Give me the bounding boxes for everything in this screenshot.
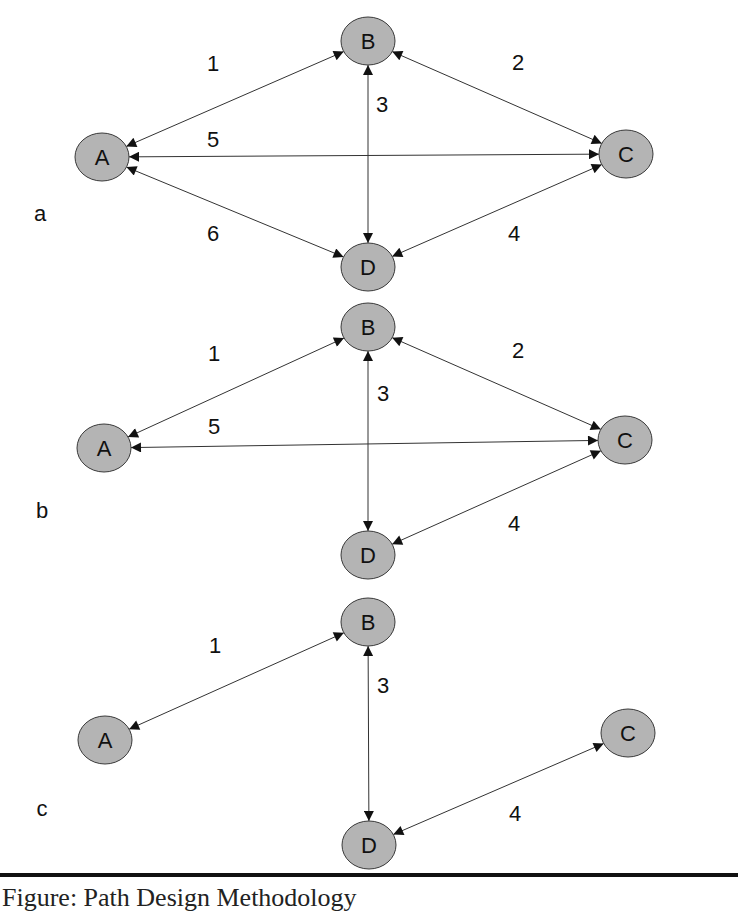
node-B: B (341, 303, 395, 351)
node-label: B (361, 29, 376, 54)
node-label: D (360, 543, 376, 568)
edge-label: 3 (376, 92, 388, 117)
panel-c: 134ABCDc (37, 598, 656, 869)
node-A: A (77, 424, 131, 472)
panel-b: 12345ABCDb (36, 303, 652, 579)
node-label: A (98, 728, 113, 753)
node-label: C (620, 721, 636, 746)
edge-label: 2 (512, 50, 524, 75)
edge-B-D (368, 646, 369, 821)
edge-label: 4 (508, 511, 520, 536)
node-A: A (75, 133, 129, 181)
edge-A-C (129, 154, 599, 157)
edge-B-C (392, 338, 601, 430)
edge-label: 4 (508, 221, 520, 246)
edge-label: 3 (377, 673, 389, 698)
panel-label: c (37, 796, 48, 821)
edge-label: 1 (209, 633, 221, 658)
node-A: A (78, 716, 132, 764)
figure-caption: Figure: Path Design Methodology (2, 885, 357, 911)
edge-C-D (392, 165, 602, 257)
edge-label: 5 (207, 127, 219, 152)
edge-B-C (392, 52, 602, 144)
edge-label: 6 (207, 221, 219, 246)
edge-label: 3 (377, 381, 389, 406)
node-B: B (341, 598, 395, 646)
edge-C-D (393, 743, 603, 834)
node-D: D (341, 243, 395, 291)
node-B: B (341, 17, 395, 65)
edge-label: 1 (207, 51, 219, 76)
node-D: D (341, 531, 395, 579)
diagram-panels: 123456ABCDa12345ABCDb134ABCDc (34, 17, 655, 869)
horizontal-rule (0, 873, 738, 877)
node-label: C (617, 428, 633, 453)
edge-label: 2 (512, 338, 524, 363)
node-C: C (598, 416, 652, 464)
edge-A-B (129, 633, 344, 729)
node-label: D (360, 255, 376, 280)
edge-A-B (128, 338, 344, 437)
node-label: B (361, 315, 376, 340)
panel-a: 123456ABCDa (34, 17, 653, 291)
edge-label: 5 (208, 414, 220, 439)
node-C: C (599, 130, 653, 178)
edge-A-D (126, 167, 343, 257)
node-label: C (618, 142, 634, 167)
edge-A-B (126, 52, 344, 147)
edge-A-C (131, 440, 598, 447)
node-label: A (97, 436, 112, 461)
panel-label: b (36, 498, 48, 523)
edge-label: 4 (509, 801, 521, 826)
edge-label: 1 (208, 341, 220, 366)
node-label: D (361, 833, 377, 858)
edge-C-D (392, 451, 601, 544)
node-D: D (342, 821, 396, 869)
node-C: C (601, 709, 655, 757)
node-label: A (95, 145, 110, 170)
panel-label: a (34, 201, 47, 226)
node-label: B (361, 610, 376, 635)
